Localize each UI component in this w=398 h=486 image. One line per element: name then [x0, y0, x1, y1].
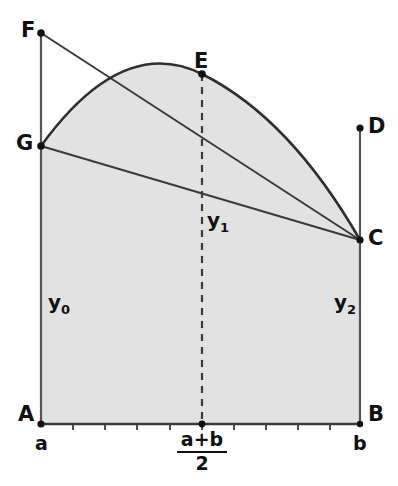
point-label-e: E: [194, 51, 208, 72]
point-label-d: D: [368, 116, 385, 137]
point-label-b: B: [368, 404, 384, 425]
ordinate-base-y1: y: [207, 208, 220, 232]
point-dot-c: [356, 236, 363, 243]
point-dot-midpoint: [199, 421, 206, 428]
ordinate-base-y0: y: [48, 290, 61, 314]
axis-label-b: b: [353, 434, 367, 453]
point-dot-a: [37, 420, 44, 427]
ordinate-label-y0: y0: [48, 292, 70, 316]
ordinate-label-y2: y2: [334, 292, 356, 316]
point-dot-d: [356, 124, 363, 131]
point-label-a: A: [18, 404, 34, 425]
fraction-denominator: 2: [193, 454, 210, 474]
geometry-figure: A B C D E F G y0 y1 y2 a b a+b 2: [0, 0, 398, 486]
point-dot-g: [37, 142, 45, 150]
ordinate-sub-y1: 1: [220, 220, 229, 235]
axis-label-a: a: [35, 434, 48, 453]
midpoint-fraction-label: a+b 2: [177, 430, 227, 474]
ordinate-sub-y2: 2: [347, 302, 356, 317]
ordinate-label-y1: y1: [207, 210, 229, 234]
shaded-area-under-parabola: [41, 63, 360, 424]
point-label-g: G: [16, 133, 33, 154]
point-label-c: C: [368, 228, 383, 249]
point-dot-b: [357, 421, 363, 427]
fraction-numerator: a+b: [179, 430, 225, 450]
ordinate-sub-y0: 0: [61, 302, 70, 317]
ordinate-base-y2: y: [334, 290, 347, 314]
point-label-f: F: [21, 20, 35, 41]
point-dot-f: [37, 29, 45, 37]
